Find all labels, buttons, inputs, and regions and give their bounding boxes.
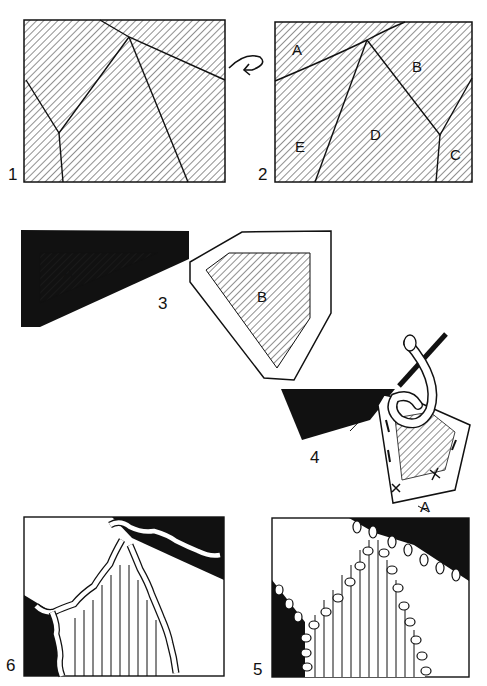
piece-label-b: B bbox=[257, 288, 267, 305]
pointer-label-a: A bbox=[420, 498, 430, 515]
piece-label-d: D bbox=[370, 126, 381, 143]
figure-3: A B 3 bbox=[21, 230, 331, 380]
piece-label-a: A bbox=[63, 264, 73, 281]
figure-number-2: 2 bbox=[258, 165, 267, 184]
illustration-canvas: 1 A B C D E 2 A B 3 bbox=[0, 0, 487, 686]
piece-label-e: E bbox=[295, 138, 305, 155]
figure-4: 4 bbox=[281, 334, 470, 503]
figure-5: A 5 bbox=[253, 498, 469, 679]
figure-2: A B C D E 2 bbox=[258, 22, 472, 184]
flip-arrow-icon bbox=[229, 56, 263, 75]
figure-1: 1 bbox=[8, 20, 225, 184]
figure-number-3: 3 bbox=[158, 294, 167, 313]
piece-label-a: A bbox=[292, 41, 302, 58]
figure-number-4: 4 bbox=[310, 448, 319, 467]
piece-label-c: C bbox=[450, 146, 461, 163]
figure-number-1: 1 bbox=[8, 165, 17, 184]
piece-label-b: B bbox=[412, 58, 422, 75]
figure-number-6: 6 bbox=[6, 656, 15, 675]
figure-6: 6 bbox=[6, 517, 224, 676]
figure-number-5: 5 bbox=[253, 660, 262, 679]
